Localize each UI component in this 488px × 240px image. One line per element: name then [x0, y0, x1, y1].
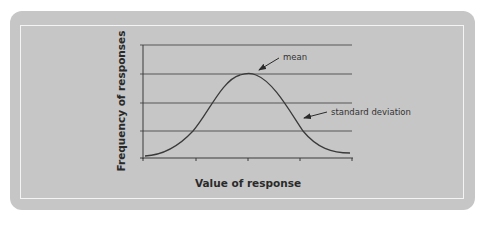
gridlines [140, 45, 352, 131]
sd-arrow [304, 112, 327, 118]
mean-annotation: mean [283, 52, 307, 62]
standard-deviation-annotation: standard deviation [331, 107, 411, 117]
mean-arrow [259, 58, 279, 70]
x-axis-label: Value of response [195, 177, 301, 189]
y-axis-label: Frequency of responses [115, 31, 127, 172]
bell-curve [145, 74, 350, 157]
